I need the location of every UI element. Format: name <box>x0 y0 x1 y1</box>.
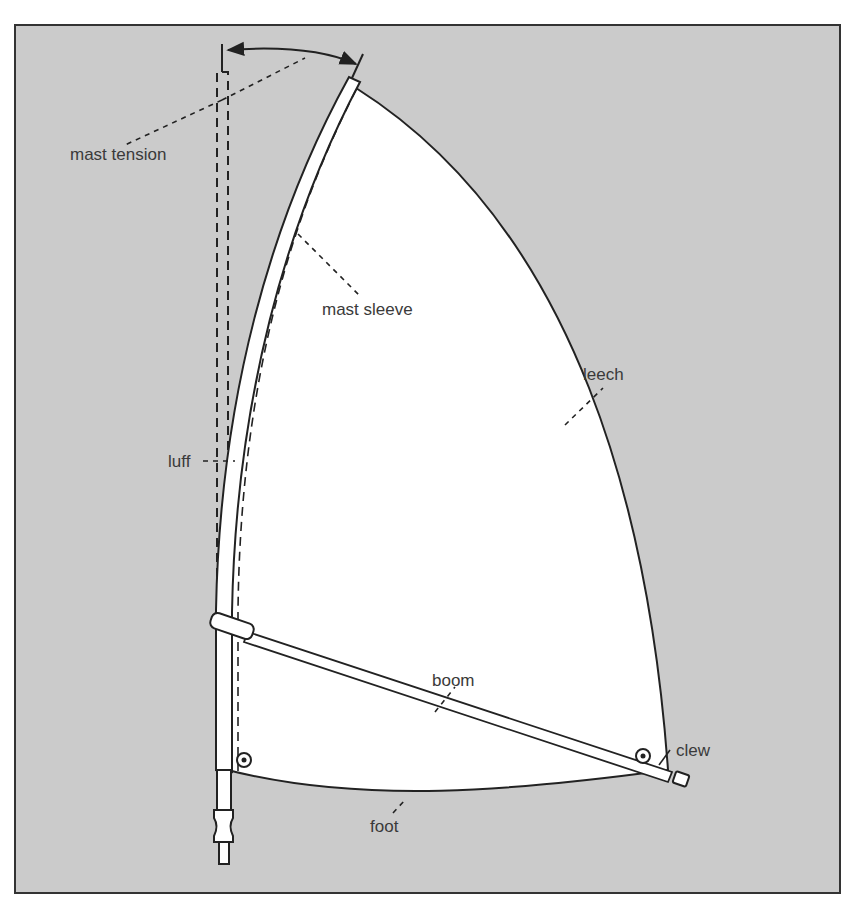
clew-grommet <box>636 749 650 763</box>
label-mast-tension: mast tension <box>70 145 166 164</box>
sail-diagram: mast tension mast sleeve leech luff boom… <box>0 0 853 910</box>
label-boom: boom <box>432 671 475 690</box>
label-leech: leech <box>583 365 624 384</box>
label-luff: luff <box>168 452 191 471</box>
tack-grommet <box>237 753 251 767</box>
label-mast-sleeve: mast sleeve <box>322 300 413 319</box>
label-clew: clew <box>676 741 711 760</box>
label-foot: foot <box>370 817 399 836</box>
